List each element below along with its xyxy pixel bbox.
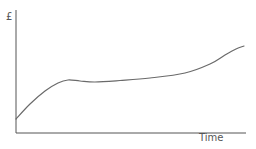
data-line <box>16 46 244 119</box>
x-axis-label: Time <box>199 133 223 143</box>
y-axis-label: £ <box>6 12 12 22</box>
line-chart <box>0 0 256 149</box>
